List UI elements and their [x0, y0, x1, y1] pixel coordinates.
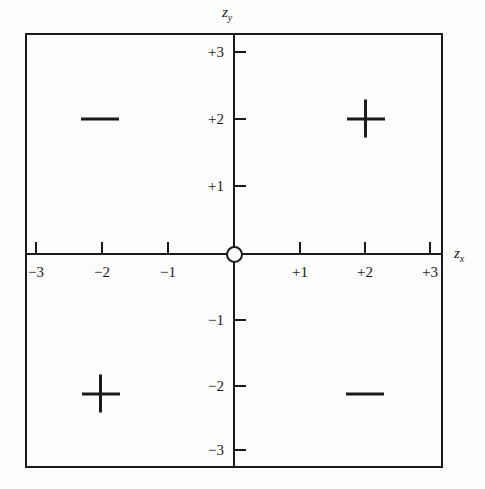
y-tick-label-plus-2: +2	[196, 111, 224, 128]
y-tick-minus-2	[235, 385, 246, 387]
x-axis-label: zx	[454, 245, 464, 264]
y-tick-plus-1	[235, 185, 246, 187]
x-tick-label-minus-3: −3	[28, 264, 44, 281]
y-tick-label-plus-1: +1	[196, 178, 224, 195]
x-tick-label-minus-2: −2	[94, 264, 110, 281]
y-tick-minus-3	[235, 449, 246, 451]
y-tick-plus-3	[235, 51, 246, 53]
x-tick-label-plus-2: +2	[357, 264, 373, 281]
y-tick-label-minus-1: −1	[196, 312, 224, 329]
minus-bar	[81, 118, 119, 121]
y-tick-plus-2	[235, 118, 246, 120]
x-axis-label-subscript: x	[460, 253, 464, 264]
y-tick-label-minus-2: −2	[196, 378, 224, 395]
x-tick-minus-3	[35, 242, 37, 253]
quadrant-sign-upper-left-minus	[81, 100, 119, 139]
quadrant-sign-upper-right-plus	[347, 100, 385, 139]
plus-bar-vertical	[364, 100, 367, 138]
x-tick-plus-3	[429, 242, 431, 253]
x-tick-minus-1	[167, 242, 169, 253]
x-tick-plus-1	[299, 242, 301, 253]
x-tick-label-minus-1: −1	[160, 264, 176, 281]
x-tick-label-plus-1: +1	[292, 264, 308, 281]
y-tick-label-minus-3: −3	[196, 442, 224, 459]
x-tick-minus-2	[101, 242, 103, 253]
x-tick-plus-2	[364, 242, 366, 253]
origin-circle-marker	[226, 246, 243, 263]
quadrant-sign-lower-right-minus	[346, 375, 384, 414]
x-tick-label-plus-3: +3	[422, 264, 438, 281]
minus-bar	[346, 393, 384, 396]
y-axis-label-subscript: y	[228, 12, 232, 23]
y-tick-label-plus-3: +3	[196, 44, 224, 61]
y-axis-label: zy	[222, 4, 232, 23]
quadrant-sign-lower-left-plus	[82, 375, 120, 414]
plus-bar-vertical	[99, 375, 102, 413]
signed-quadrant-diagram: −3 −2 −1 +1 +2 +3 +3 +2 +1 −1 −2 −3 zy z…	[0, 0, 485, 489]
y-tick-minus-1	[235, 319, 246, 321]
